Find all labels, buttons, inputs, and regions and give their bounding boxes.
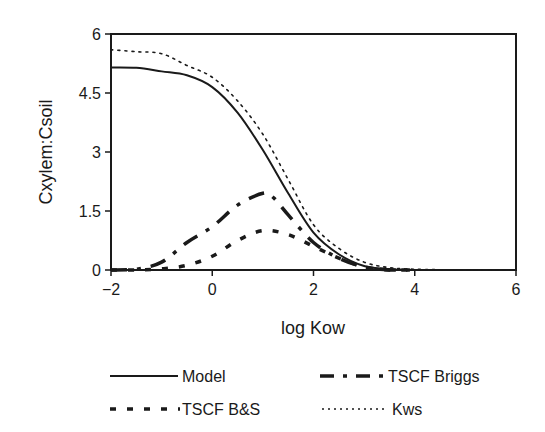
x-axis-label: log Kow (281, 318, 346, 338)
chart: −2024601.534.56 Cxylem:Csoil log Kow Mod… (0, 0, 545, 432)
x-tick-label: 6 (512, 281, 521, 298)
series-layer (111, 50, 516, 270)
y-tick-label: 6 (92, 26, 101, 43)
legend-item-model: Model (110, 368, 226, 385)
legend: Model TSCF Briggs TSCF B&S Kws (110, 368, 480, 418)
series-kws (111, 50, 516, 270)
svg-text:TSCF B&S: TSCF B&S (182, 401, 260, 418)
y-tick-label: 1.5 (79, 203, 101, 220)
x-tick-label: −2 (102, 281, 120, 298)
series-tscf-briggs (111, 193, 415, 270)
svg-text:Kws: Kws (392, 401, 422, 418)
legend-item-tscf-bs: TSCF B&S (110, 401, 260, 418)
legend-item-tscf-briggs: TSCF Briggs (320, 368, 480, 385)
y-tick-label: 4.5 (79, 85, 101, 102)
y-tick-label: 0 (92, 262, 101, 279)
svg-text:TSCF Briggs: TSCF Briggs (388, 368, 480, 385)
y-tick-label: 3 (92, 144, 101, 161)
legend-item-kws: Kws (322, 401, 422, 418)
x-tick-label: 4 (410, 281, 419, 298)
svg-text:Model: Model (182, 368, 226, 385)
ticks-layer: −2024601.534.56 (79, 26, 521, 298)
y-axis-label: Cxylem:Csoil (36, 99, 56, 204)
plot-frame (111, 34, 516, 270)
x-tick-label: 0 (208, 281, 217, 298)
x-tick-label: 2 (309, 281, 318, 298)
series-model (111, 67, 516, 270)
